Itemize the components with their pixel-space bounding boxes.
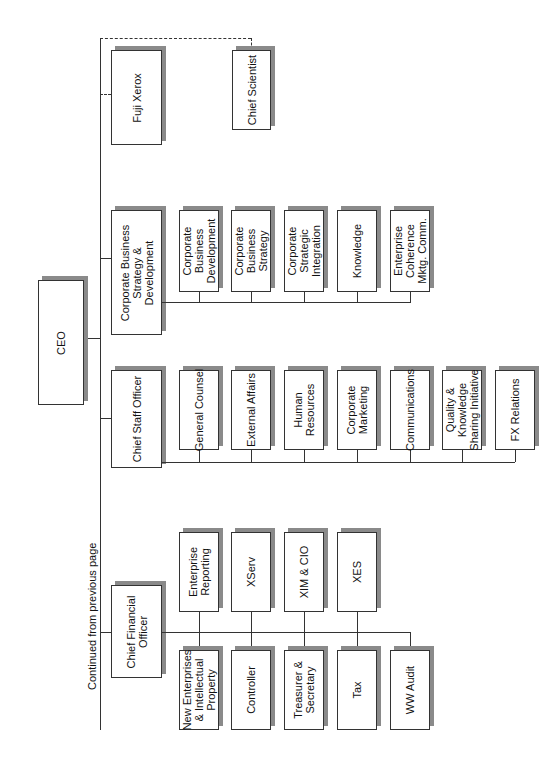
strategy-child[interactable]: Corporate Strategic Integration	[284, 210, 324, 292]
cfo-head-box[interactable]: Chief Financial Officer	[111, 585, 162, 678]
staff-head-box[interactable]: Chief Staff Officer	[111, 370, 162, 468]
staff-child[interactable]: FX Relations	[495, 370, 535, 450]
cfo-upper-child[interactable]: XServ	[231, 532, 271, 612]
ceo-box[interactable]: CEO	[38, 280, 84, 405]
strategy-child[interactable]: Corporate Business Development	[179, 210, 219, 292]
cfo-lower-child[interactable]: Treasurer & Secretary	[284, 650, 324, 730]
dotted-line-fuji	[100, 94, 111, 95]
staff-child[interactable]: Corporate Marketing	[337, 370, 377, 450]
chief-scientist-box[interactable]: Chief Scientist	[232, 50, 271, 130]
strategy-child[interactable]: Knowledge	[337, 210, 377, 292]
staff-child[interactable]: External Affairs	[231, 370, 271, 450]
staff-child[interactable]: Quality & Knowledge Sharing Initiative	[442, 370, 482, 450]
staff-child[interactable]: Communications	[390, 370, 430, 450]
ceo-connector	[84, 338, 100, 339]
staff-child[interactable]: General Counsel	[179, 370, 219, 450]
strategy-child[interactable]: Corporate Business Strategy	[231, 210, 271, 292]
cfo-upper-child[interactable]: XIM & CIO	[284, 532, 324, 612]
cfo-upper-child[interactable]: Enterprise Reporting	[179, 532, 219, 612]
ceo-label: CEO	[55, 331, 67, 355]
continued-note: Continued from previous page	[86, 543, 98, 690]
cfo-lower-child[interactable]: WW Audit	[390, 650, 430, 730]
cfo-lower-child[interactable]: New Enterprises & Intellectual Property	[179, 650, 219, 730]
dotted-line-top	[100, 38, 251, 39]
cfo-upper-child[interactable]: XES	[337, 532, 377, 612]
strategy-child[interactable]: Enterprise Coherence Mktg. Comm.	[390, 210, 430, 292]
cfo-lower-child[interactable]: Controller	[231, 650, 271, 730]
strategy-head-box[interactable]: Corporate Business Strategy & Developmen…	[111, 210, 162, 335]
trunk-line	[100, 38, 101, 730]
staff-child[interactable]: Human Resources	[284, 370, 324, 450]
cfo-lower-child[interactable]: Tax	[337, 650, 377, 730]
fuji-xerox-box[interactable]: Fuji Xerox	[111, 50, 162, 145]
dotted-line-sci	[251, 38, 252, 50]
